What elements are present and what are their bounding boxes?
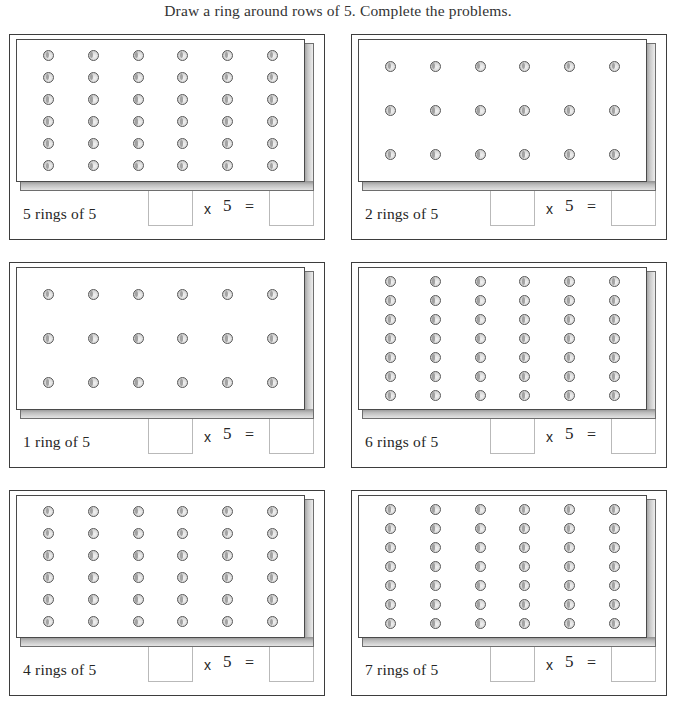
ring-bead-icon	[564, 352, 575, 363]
ring-bead-icon	[385, 523, 396, 534]
ring-bead-icon	[564, 149, 575, 160]
ring-bead-icon	[43, 550, 54, 561]
ring-bead-icon	[385, 352, 396, 363]
board-edge-bottom	[20, 409, 314, 419]
ring-bead-icon	[222, 572, 233, 583]
ring-bead-icon	[564, 599, 575, 610]
ring-bead-icon	[88, 138, 99, 149]
ring-bead-icon	[430, 333, 441, 344]
ring-bead-icon	[609, 580, 620, 591]
ring-bead-icon	[609, 523, 620, 534]
dot-board	[16, 39, 314, 191]
problem-label: 5 rings of 5	[23, 205, 96, 223]
ring-bead-icon	[609, 561, 620, 572]
ring-bead-icon	[177, 572, 188, 583]
ring-bead-icon	[564, 390, 575, 401]
ring-bead-icon	[564, 276, 575, 287]
ring-bead-icon	[177, 594, 188, 605]
ring-bead-icon	[564, 371, 575, 382]
ring-bead-icon	[43, 94, 54, 105]
ring-bead-icon	[475, 61, 486, 72]
ring-bead-icon	[519, 390, 530, 401]
ring-bead-icon	[519, 599, 530, 610]
ring-bead-icon	[133, 333, 144, 344]
ring-bead-icon	[475, 149, 486, 160]
ring-bead-icon	[564, 618, 575, 629]
ring-bead-icon	[430, 561, 441, 572]
board-face	[16, 495, 305, 638]
ring-bead-icon	[133, 572, 144, 583]
dot-board	[358, 495, 656, 647]
dot-array	[359, 40, 646, 181]
ring-bead-icon	[564, 105, 575, 116]
ring-bead-icon	[475, 314, 486, 325]
ring-bead-icon	[88, 160, 99, 171]
board-edge-bottom	[20, 637, 314, 647]
board-face	[358, 39, 647, 182]
ring-bead-icon	[133, 289, 144, 300]
board-edge-bottom	[362, 637, 656, 647]
ring-bead-icon	[88, 377, 99, 388]
board-edge-right	[304, 271, 314, 410]
ring-bead-icon	[430, 61, 441, 72]
worksheet-page: Draw a ring around rows of 5. Complete t…	[0, 0, 676, 715]
ring-bead-icon	[475, 371, 486, 382]
answer-row: 1 ring of 5x5=	[10, 417, 324, 467]
ring-bead-icon	[609, 149, 620, 160]
ring-bead-icon	[385, 314, 396, 325]
multiplier-value: 5	[565, 196, 574, 216]
ring-bead-icon	[133, 72, 144, 83]
ring-bead-icon	[133, 160, 144, 171]
ring-bead-icon	[133, 506, 144, 517]
ring-bead-icon	[475, 390, 486, 401]
dot-board	[358, 39, 656, 191]
problem-panel: 2 rings of 5x5=	[351, 34, 667, 240]
ring-bead-icon	[519, 542, 530, 553]
board-edge-bottom	[362, 409, 656, 419]
equals-symbol: =	[587, 198, 596, 216]
ring-bead-icon	[519, 618, 530, 629]
ring-bead-icon	[385, 561, 396, 572]
ring-bead-icon	[430, 504, 441, 515]
ring-bead-icon	[222, 616, 233, 627]
multiplication-symbol: x	[546, 429, 553, 445]
ring-bead-icon	[43, 377, 54, 388]
ring-bead-icon	[177, 160, 188, 171]
ring-bead-icon	[430, 314, 441, 325]
ring-bead-icon	[88, 333, 99, 344]
ring-bead-icon	[267, 160, 278, 171]
ring-bead-icon	[430, 105, 441, 116]
ring-bead-icon	[267, 289, 278, 300]
ring-bead-icon	[564, 61, 575, 72]
ring-bead-icon	[385, 105, 396, 116]
ring-bead-icon	[267, 333, 278, 344]
ring-bead-icon	[177, 116, 188, 127]
ring-bead-icon	[177, 616, 188, 627]
dot-array	[359, 496, 646, 637]
board-face	[16, 39, 305, 182]
equals-symbol: =	[245, 654, 254, 672]
ring-bead-icon	[430, 542, 441, 553]
ring-bead-icon	[475, 599, 486, 610]
answer-row: 6 rings of 5x5=	[352, 417, 666, 467]
ring-bead-icon	[385, 371, 396, 382]
ring-bead-icon	[43, 160, 54, 171]
ring-bead-icon	[519, 561, 530, 572]
ring-bead-icon	[177, 289, 188, 300]
ring-bead-icon	[519, 295, 530, 306]
ring-bead-icon	[88, 50, 99, 61]
multiplication-symbol: x	[204, 429, 211, 445]
ring-bead-icon	[267, 528, 278, 539]
ring-bead-icon	[385, 61, 396, 72]
ring-bead-icon	[88, 616, 99, 627]
ring-bead-icon	[177, 528, 188, 539]
problem-label: 7 rings of 5	[365, 661, 438, 679]
board-edge-right	[304, 499, 314, 638]
problem-panel-grid: 5 rings of 5x5=2 rings of 5x5=1 ring of …	[9, 34, 667, 696]
ring-bead-icon	[222, 333, 233, 344]
ring-bead-icon	[519, 333, 530, 344]
dot-array	[17, 268, 304, 409]
ring-bead-icon	[519, 276, 530, 287]
multiplier-value: 5	[223, 196, 232, 216]
ring-bead-icon	[609, 390, 620, 401]
